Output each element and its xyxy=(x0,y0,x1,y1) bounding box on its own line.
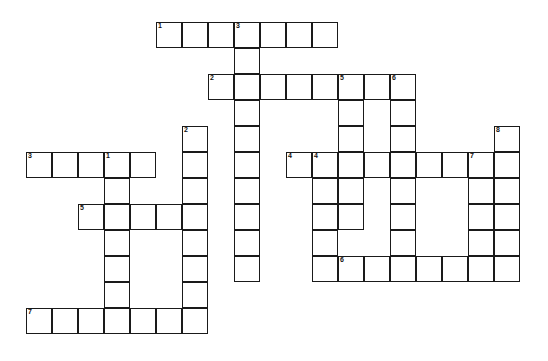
crossword-cell[interactable] xyxy=(416,152,442,178)
crossword-cell[interactable] xyxy=(182,152,208,178)
crossword-cell[interactable] xyxy=(234,178,260,204)
crossword-cell[interactable] xyxy=(182,308,208,334)
crossword-cell[interactable] xyxy=(338,204,364,230)
cell-letter xyxy=(391,231,415,255)
cell-letter xyxy=(391,127,415,151)
crossword-cell[interactable] xyxy=(104,256,130,282)
crossword-cell[interactable]: 6 xyxy=(390,74,416,100)
crossword-cell[interactable] xyxy=(234,256,260,282)
crossword-cell[interactable] xyxy=(130,204,156,230)
crossword-cell[interactable] xyxy=(234,74,260,100)
cell-letter xyxy=(313,205,337,229)
crossword-cell[interactable] xyxy=(78,308,104,334)
cell-letter xyxy=(183,179,207,203)
crossword-cell[interactable] xyxy=(182,178,208,204)
crossword-cell[interactable]: 5 xyxy=(78,204,104,230)
crossword-cell[interactable] xyxy=(182,230,208,256)
crossword-cell[interactable] xyxy=(364,256,390,282)
crossword-cell[interactable] xyxy=(182,204,208,230)
crossword-cell[interactable] xyxy=(390,100,416,126)
crossword-cell[interactable] xyxy=(234,48,260,74)
crossword-cell[interactable]: 2 xyxy=(182,126,208,152)
crossword-cell[interactable]: 7 xyxy=(468,152,494,178)
crossword-cell[interactable] xyxy=(234,152,260,178)
crossword-cell[interactable] xyxy=(338,178,364,204)
crossword-cell[interactable] xyxy=(234,126,260,152)
crossword-cell[interactable] xyxy=(390,126,416,152)
crossword-cell[interactable] xyxy=(78,152,104,178)
crossword-cell[interactable] xyxy=(364,152,390,178)
crossword-cell[interactable] xyxy=(312,74,338,100)
crossword-cell[interactable] xyxy=(104,178,130,204)
crossword-cell[interactable] xyxy=(338,126,364,152)
cell-letter xyxy=(105,231,129,255)
crossword-cell[interactable] xyxy=(52,152,78,178)
crossword-cell[interactable] xyxy=(494,178,520,204)
crossword-cell[interactable] xyxy=(468,178,494,204)
crossword-cell[interactable]: 5 xyxy=(338,74,364,100)
crossword-cell[interactable] xyxy=(286,22,312,48)
crossword-cell[interactable] xyxy=(130,152,156,178)
crossword-cell[interactable] xyxy=(104,204,130,230)
crossword-cell[interactable]: 1 xyxy=(104,152,130,178)
crossword-cell[interactable] xyxy=(338,152,364,178)
crossword-cell[interactable] xyxy=(338,100,364,126)
crossword-cell[interactable] xyxy=(156,308,182,334)
crossword-cell[interactable] xyxy=(312,204,338,230)
crossword-cell[interactable] xyxy=(182,282,208,308)
cell-letter xyxy=(313,231,337,255)
crossword-cell[interactable] xyxy=(104,308,130,334)
crossword-cell[interactable]: 1 xyxy=(156,22,182,48)
crossword-cell[interactable] xyxy=(390,178,416,204)
crossword-cell[interactable] xyxy=(286,74,312,100)
cell-letter xyxy=(183,205,207,229)
cell-letter xyxy=(339,101,363,125)
crossword-cell[interactable] xyxy=(156,204,182,230)
crossword-cell[interactable] xyxy=(364,74,390,100)
crossword-cell[interactable] xyxy=(442,152,468,178)
crossword-cell[interactable] xyxy=(234,204,260,230)
cell-letter xyxy=(235,75,259,99)
crossword-cell[interactable] xyxy=(390,256,416,282)
crossword-cell[interactable] xyxy=(494,152,520,178)
crossword-cell[interactable] xyxy=(182,22,208,48)
crossword-cell[interactable]: 6 xyxy=(338,256,364,282)
crossword-cell[interactable] xyxy=(494,256,520,282)
crossword-cell[interactable] xyxy=(312,178,338,204)
crossword-cell[interactable] xyxy=(234,100,260,126)
cell-letter xyxy=(417,153,441,177)
crossword-cell[interactable] xyxy=(260,74,286,100)
crossword-cell[interactable] xyxy=(130,308,156,334)
crossword-cell[interactable] xyxy=(468,230,494,256)
crossword-cell[interactable]: 8 xyxy=(494,126,520,152)
crossword-cell[interactable] xyxy=(52,308,78,334)
crossword-cell[interactable] xyxy=(494,230,520,256)
cell-letter xyxy=(339,75,363,99)
crossword-cell[interactable] xyxy=(416,256,442,282)
crossword-cell[interactable]: 3 xyxy=(26,152,52,178)
crossword-cell[interactable] xyxy=(390,230,416,256)
crossword-cell[interactable] xyxy=(390,204,416,230)
crossword-cell[interactable] xyxy=(104,230,130,256)
crossword-cell[interactable] xyxy=(494,204,520,230)
crossword-cell[interactable] xyxy=(312,256,338,282)
crossword-cell[interactable]: 4 xyxy=(286,152,312,178)
crossword-cell[interactable] xyxy=(182,256,208,282)
crossword-cell[interactable]: 2 xyxy=(208,74,234,100)
cell-letter xyxy=(105,309,129,333)
crossword-cell[interactable] xyxy=(468,256,494,282)
crossword-cell[interactable] xyxy=(390,152,416,178)
crossword-cell[interactable]: 3 xyxy=(234,22,260,48)
crossword-cell[interactable] xyxy=(104,282,130,308)
crossword-cell[interactable] xyxy=(234,230,260,256)
crossword-cell[interactable] xyxy=(442,256,468,282)
crossword-cell[interactable]: 7 xyxy=(26,308,52,334)
crossword-cell[interactable] xyxy=(312,22,338,48)
crossword-cell[interactable]: 4 xyxy=(312,152,338,178)
crossword-cell[interactable] xyxy=(260,22,286,48)
crossword-cell[interactable] xyxy=(208,22,234,48)
crossword-cell[interactable] xyxy=(312,230,338,256)
cell-letter xyxy=(391,179,415,203)
cell-letter xyxy=(313,153,337,177)
crossword-cell[interactable] xyxy=(468,204,494,230)
